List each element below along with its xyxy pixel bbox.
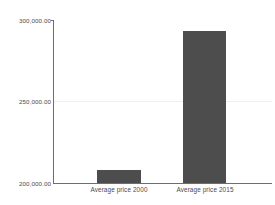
bar-average-price-2000 bbox=[97, 170, 141, 183]
x-axis-label-average-price-2015: Average price 2015 bbox=[148, 185, 262, 194]
x-axis-category-labels: Average price 2000 Average price 2015 bbox=[54, 185, 272, 199]
bar-chart: 300,000.00 250,000.00 200,000.00 Average… bbox=[0, 0, 275, 205]
plot-area bbox=[54, 20, 272, 183]
bar-average-price-2015 bbox=[183, 31, 226, 183]
y-axis-tick-label-300000: 300,000.00 bbox=[0, 17, 51, 24]
y-axis-tick-label-200000: 200,000.00 bbox=[0, 180, 51, 187]
x-axis-line bbox=[53, 183, 272, 184]
y-axis-tick-label-250000: 250,000.00 bbox=[0, 98, 51, 105]
